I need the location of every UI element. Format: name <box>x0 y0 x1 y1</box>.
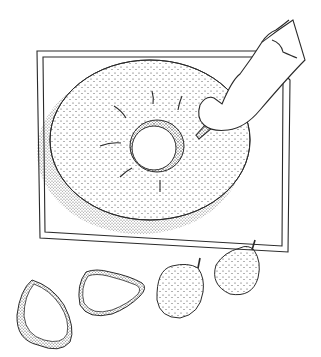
pear-half-1 <box>17 280 72 349</box>
ring-cake <box>37 60 250 234</box>
illustration <box>0 0 321 357</box>
pear-whole-1 <box>157 258 204 318</box>
pear-half-2 <box>79 270 145 316</box>
